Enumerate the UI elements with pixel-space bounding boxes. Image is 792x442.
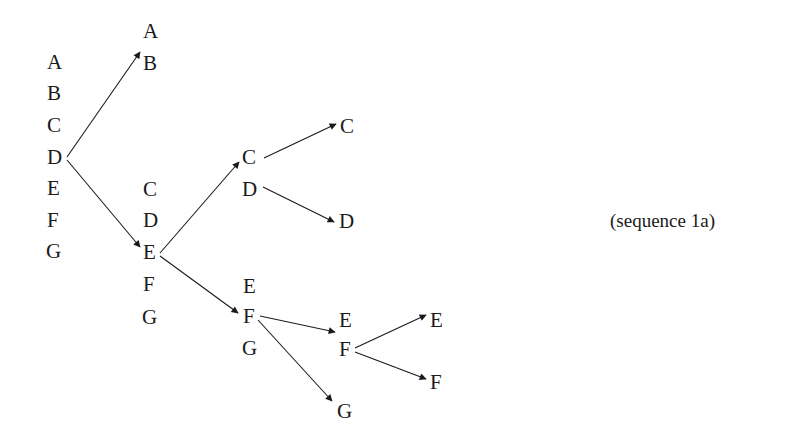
node-c5-E: E bbox=[430, 310, 443, 331]
node-c1-C: C bbox=[47, 115, 61, 136]
node-c2a-B: B bbox=[143, 53, 157, 74]
node-c3a-D: D bbox=[242, 179, 257, 200]
node-c2b-C: C bbox=[143, 179, 157, 200]
node-c2b-F: F bbox=[143, 274, 155, 295]
arrow-c3b-F-to-c4b-EF bbox=[260, 316, 335, 332]
node-c4b-E: E bbox=[339, 310, 352, 331]
node-c3a-C: C bbox=[242, 147, 256, 168]
node-c1-G: G bbox=[46, 241, 61, 262]
arrow-c3a-C-to-c4a-C bbox=[264, 124, 336, 158]
node-c4a-C: C bbox=[340, 116, 354, 137]
sequence-caption: (sequence 1a) bbox=[610, 210, 715, 232]
node-c1-D: D bbox=[47, 147, 62, 168]
arrow-c3b-F-to-c4b-G bbox=[258, 320, 332, 401]
arrow-c1-D-to-c2a-B bbox=[67, 52, 140, 157]
node-c4a-D: D bbox=[339, 211, 354, 232]
node-c2b-G: G bbox=[142, 307, 157, 328]
arrow-c3a-D-to-c4a-D bbox=[263, 187, 334, 222]
arrow-c4b-F-to-c5-F bbox=[355, 352, 426, 379]
arrow-c2b-E-to-c3a-C bbox=[160, 162, 239, 253]
node-c3b-G: G bbox=[242, 338, 257, 359]
node-c2a-A: A bbox=[143, 21, 158, 42]
node-c2b-E: E bbox=[143, 242, 156, 263]
node-c5-F: F bbox=[430, 372, 442, 393]
node-c1-B: B bbox=[47, 83, 61, 104]
node-c3b-E: E bbox=[243, 276, 256, 297]
node-c2b-D: D bbox=[143, 210, 158, 231]
node-c4b-F: F bbox=[339, 339, 351, 360]
node-c4b-G: G bbox=[337, 401, 352, 422]
arrow-c2b-E-to-c3b-F bbox=[160, 256, 238, 313]
node-c1-E: E bbox=[47, 178, 60, 199]
sequence-tree-diagram: ABCDEFGABCDEFGCDEFGCDEFGEF (sequence 1a) bbox=[0, 0, 792, 442]
arrow-c4b-F-to-c5-E bbox=[355, 315, 426, 348]
node-c1-A: A bbox=[47, 52, 62, 73]
node-c1-F: F bbox=[47, 210, 59, 231]
node-c3b-F: F bbox=[243, 306, 255, 327]
arrow-c1-D-to-c2b-E bbox=[67, 160, 140, 247]
